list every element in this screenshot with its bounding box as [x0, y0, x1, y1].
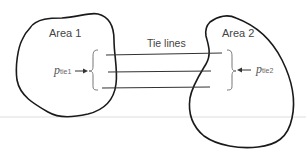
right-brace [227, 50, 236, 90]
area-1-label: Area 1 [49, 27, 81, 39]
left-brace [89, 50, 98, 90]
p-tie2-subscript: tie2 [262, 67, 273, 74]
two-area-diagram [0, 0, 306, 158]
area-2-label: Area 2 [222, 27, 254, 39]
tie-line-1 [106, 53, 222, 55]
arrow-right-icon [83, 69, 88, 74]
tie-lines-label: Tie lines [147, 37, 186, 49]
tie-line-2 [108, 71, 211, 72]
p-tie1-label: ptie1 [54, 63, 71, 78]
arrow-left-icon [237, 68, 242, 73]
p-tie1-subscript: tie1 [60, 68, 71, 75]
p-tie2-label: ptie2 [256, 62, 273, 77]
